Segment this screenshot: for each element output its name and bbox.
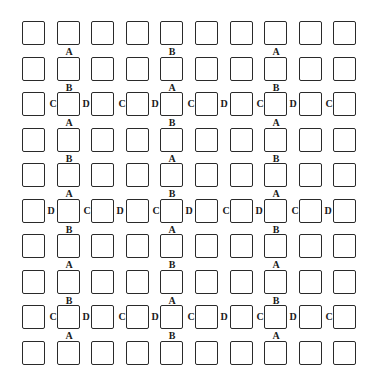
grid-cell bbox=[264, 270, 287, 294]
vertical-port-label: A bbox=[64, 331, 74, 341]
vertical-port-label: A bbox=[271, 189, 281, 199]
grid-cell bbox=[230, 21, 253, 45]
grid-diagram: ABABABABABABABABABABABABABACDCDCDCDCDCDC… bbox=[0, 0, 377, 383]
grid-cell bbox=[195, 21, 218, 45]
vertical-port-label: A bbox=[167, 154, 177, 164]
vertical-port-label: B bbox=[271, 154, 281, 164]
grid-cell bbox=[333, 270, 356, 294]
vertical-port-label: A bbox=[64, 260, 74, 270]
grid-cell bbox=[126, 199, 149, 223]
grid-cell bbox=[299, 341, 322, 365]
grid-cell bbox=[126, 92, 149, 116]
horizontal-port-label: D bbox=[115, 206, 125, 216]
grid-cell bbox=[195, 305, 218, 329]
grid-cell bbox=[195, 163, 218, 187]
grid-cell bbox=[160, 57, 183, 81]
grid-cell bbox=[91, 128, 114, 152]
vertical-port-label: A bbox=[167, 83, 177, 93]
grid-cell bbox=[126, 341, 149, 365]
grid-cell bbox=[195, 92, 218, 116]
vertical-port-label: A bbox=[167, 296, 177, 306]
horizontal-port-label: C bbox=[290, 206, 300, 216]
horizontal-port-label: D bbox=[219, 312, 229, 322]
grid-cell bbox=[230, 234, 253, 258]
grid-cell bbox=[264, 199, 287, 223]
grid-cell bbox=[230, 57, 253, 81]
grid-cell bbox=[160, 305, 183, 329]
grid-cell bbox=[230, 199, 253, 223]
vertical-port-label: B bbox=[167, 331, 177, 341]
vertical-port-label: B bbox=[64, 154, 74, 164]
vertical-port-label: B bbox=[167, 47, 177, 57]
vertical-port-label: B bbox=[167, 189, 177, 199]
grid-cell bbox=[299, 21, 322, 45]
grid-cell bbox=[160, 128, 183, 152]
grid-cell bbox=[22, 163, 45, 187]
grid-cell bbox=[264, 92, 287, 116]
grid-cell bbox=[91, 57, 114, 81]
vertical-port-label: B bbox=[271, 296, 281, 306]
grid-cell bbox=[160, 163, 183, 187]
grid-cell bbox=[299, 163, 322, 187]
grid-cell bbox=[160, 234, 183, 258]
grid-cell bbox=[57, 234, 80, 258]
grid-cell bbox=[22, 199, 45, 223]
grid-cell bbox=[195, 128, 218, 152]
grid-cell bbox=[57, 57, 80, 81]
grid-cell bbox=[91, 199, 114, 223]
horizontal-port-label: D bbox=[46, 206, 56, 216]
vertical-port-label: A bbox=[64, 118, 74, 128]
vertical-port-label: B bbox=[271, 225, 281, 235]
horizontal-port-label: C bbox=[82, 206, 92, 216]
vertical-port-label: B bbox=[64, 296, 74, 306]
grid-cell bbox=[126, 128, 149, 152]
horizontal-port-label: C bbox=[117, 312, 127, 322]
grid-cell bbox=[264, 57, 287, 81]
vertical-port-label: B bbox=[167, 260, 177, 270]
grid-cell bbox=[333, 163, 356, 187]
grid-cell bbox=[126, 57, 149, 81]
grid-cell bbox=[195, 199, 218, 223]
grid-cell bbox=[126, 234, 149, 258]
horizontal-port-label: C bbox=[48, 312, 58, 322]
horizontal-port-label: C bbox=[324, 312, 334, 322]
grid-cell bbox=[299, 199, 322, 223]
horizontal-port-label: C bbox=[221, 206, 231, 216]
grid-cell bbox=[333, 199, 356, 223]
grid-cell bbox=[264, 163, 287, 187]
horizontal-port-label: D bbox=[219, 99, 229, 109]
grid-cell bbox=[333, 21, 356, 45]
grid-cell bbox=[230, 163, 253, 187]
grid-cell bbox=[230, 92, 253, 116]
grid-cell bbox=[22, 270, 45, 294]
grid-cell bbox=[126, 270, 149, 294]
grid-cell bbox=[91, 234, 114, 258]
grid-cell bbox=[333, 341, 356, 365]
grid-cell bbox=[299, 128, 322, 152]
horizontal-port-label: C bbox=[186, 312, 196, 322]
grid-cell bbox=[264, 341, 287, 365]
horizontal-port-label: C bbox=[255, 99, 265, 109]
grid-cell bbox=[333, 92, 356, 116]
grid-cell bbox=[91, 341, 114, 365]
horizontal-port-label: D bbox=[288, 312, 298, 322]
vertical-port-label: A bbox=[167, 225, 177, 235]
grid-cell bbox=[195, 57, 218, 81]
grid-cell bbox=[160, 270, 183, 294]
horizontal-port-label: C bbox=[151, 206, 161, 216]
horizontal-port-label: D bbox=[323, 206, 333, 216]
grid-cell bbox=[333, 305, 356, 329]
vertical-port-label: A bbox=[271, 118, 281, 128]
vertical-port-label: B bbox=[271, 83, 281, 93]
grid-cell bbox=[57, 92, 80, 116]
grid-cell bbox=[57, 270, 80, 294]
grid-cell bbox=[57, 21, 80, 45]
grid-cell bbox=[22, 234, 45, 258]
horizontal-port-label: C bbox=[48, 99, 58, 109]
vertical-port-label: A bbox=[64, 47, 74, 57]
horizontal-port-label: D bbox=[254, 206, 264, 216]
grid-cell bbox=[160, 341, 183, 365]
vertical-port-label: A bbox=[271, 331, 281, 341]
horizontal-port-label: D bbox=[81, 99, 91, 109]
grid-cell bbox=[333, 234, 356, 258]
